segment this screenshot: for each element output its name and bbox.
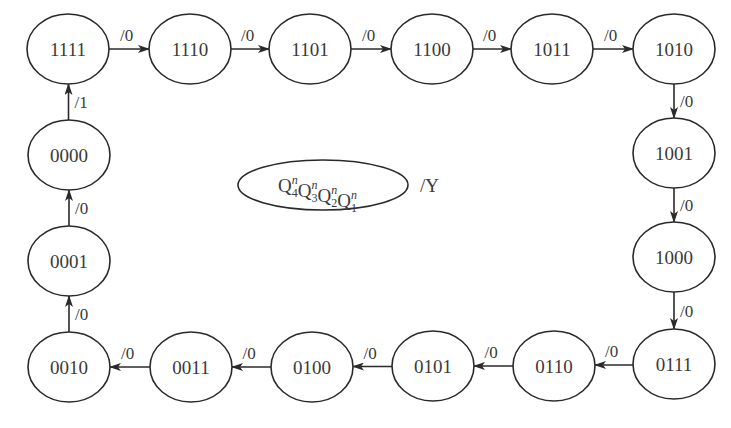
- transition-output-label: /0: [604, 26, 617, 45]
- state-node-1101: 1101: [269, 14, 351, 84]
- transition-output-label: /0: [362, 26, 375, 45]
- state-node-0101: 0101: [392, 331, 474, 401]
- state-label: 0110: [535, 356, 572, 377]
- state-node-1110: 1110: [149, 14, 231, 84]
- transition-output-label: /0: [75, 305, 88, 324]
- transition-output-label: /0: [241, 26, 254, 45]
- state-node-0010: 0010: [28, 332, 110, 402]
- transition-output-label: /0: [483, 26, 496, 45]
- state-node-0110: 0110: [513, 331, 595, 401]
- transition-output-label: /0: [680, 302, 693, 321]
- state-label: 1111: [50, 39, 86, 60]
- transition-output-label: /0: [75, 199, 88, 218]
- state-diagram: /0/0/0/0/0/0/0/0/0/0/0/0/0/0/0/1 1111111…: [0, 0, 731, 428]
- state-label: 1000: [655, 247, 693, 268]
- state-label: 0111: [656, 354, 693, 375]
- state-node-1000: 1000: [633, 222, 715, 292]
- state-label: 0101: [414, 356, 452, 377]
- state-node-0001: 0001: [28, 226, 110, 296]
- state-node-0111: 0111: [633, 329, 715, 399]
- state-node-0011: 0011: [150, 332, 232, 402]
- state-node-0000: 0000: [28, 120, 110, 190]
- transition-output-label: /0: [680, 92, 693, 111]
- state-label: 1100: [413, 39, 450, 60]
- legend-output-label: /Y: [420, 175, 439, 196]
- state-node-0100: 0100: [271, 332, 353, 402]
- state-label: 1001: [655, 143, 693, 164]
- state-label: 1010: [655, 39, 693, 60]
- legend: Qn4Qn3Qn2Qn1 /Y: [238, 160, 439, 215]
- state-label: 0001: [50, 251, 88, 272]
- transition-output-label: /0: [121, 344, 134, 363]
- transition-output-label: /0: [364, 344, 377, 363]
- state-node-1001: 1001: [633, 118, 715, 188]
- transition-output-label: /0: [605, 342, 618, 361]
- transition-output-label: /0: [243, 344, 256, 363]
- state-label: 0010: [50, 357, 88, 378]
- state-node-1100: 1100: [391, 14, 473, 84]
- transition-output-label: /0: [485, 343, 498, 362]
- state-label: 1110: [172, 39, 209, 60]
- state-node-1011: 1011: [511, 14, 593, 84]
- state-label: 0011: [172, 357, 209, 378]
- state-label: 0100: [293, 357, 331, 378]
- transition-output-label: /0: [120, 26, 133, 45]
- state-node-1111: 1111: [27, 14, 109, 84]
- state-node-1010: 1010: [633, 14, 715, 84]
- transition-output-label: /1: [75, 93, 88, 112]
- state-label: 0000: [50, 145, 88, 166]
- state-label: 1011: [533, 39, 570, 60]
- transition-output-label: /0: [680, 196, 693, 215]
- state-label: 1101: [291, 39, 328, 60]
